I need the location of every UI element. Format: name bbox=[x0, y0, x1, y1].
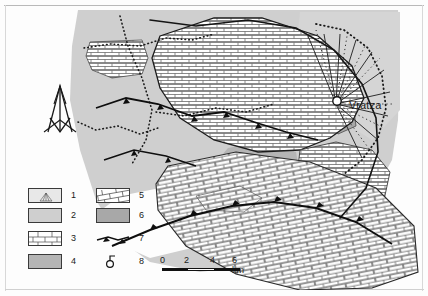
legend-swatch-1 bbox=[28, 188, 62, 203]
scale-label-4: 4 bbox=[210, 255, 215, 265]
scale-rule bbox=[160, 268, 246, 272]
legend-number-6: 6 bbox=[139, 211, 144, 220]
legend-number-2: 2 bbox=[71, 211, 76, 220]
legend-item-4: 4 bbox=[28, 252, 76, 270]
brick-pattern-icon bbox=[29, 232, 62, 246]
map-margin-white-left bbox=[6, 6, 78, 186]
legend: 1 2 bbox=[28, 186, 158, 278]
legend-item-3: 3 bbox=[28, 229, 76, 247]
settlement-marker-vratza bbox=[333, 97, 341, 105]
legend-swatch-2 bbox=[28, 208, 62, 223]
legend-item-5: 5 bbox=[96, 186, 144, 204]
scale-label-6km: 6 km bbox=[232, 255, 246, 275]
legend-symbol-8 bbox=[96, 254, 130, 269]
scale-segment-1 bbox=[162, 268, 188, 271]
geological-map-figure: Vratza 1 2 bbox=[0, 0, 428, 296]
scale-tick-labels: 0 2 4 6 km bbox=[160, 255, 246, 266]
city-label-vratza: Vratza bbox=[349, 99, 382, 111]
legend-number-7: 7 bbox=[139, 234, 144, 243]
legend-number-5: 5 bbox=[139, 191, 144, 200]
scale-bar: 0 2 4 6 km bbox=[160, 255, 260, 281]
legend-number-8: 8 bbox=[139, 257, 144, 266]
legend-item-7: 7 bbox=[96, 229, 144, 247]
scale-segment-3 bbox=[214, 268, 240, 271]
legend-item-8: 8 bbox=[96, 252, 144, 270]
legend-symbol-7 bbox=[96, 231, 130, 246]
scale-label-0: 0 bbox=[160, 255, 165, 265]
legend-swatch-6 bbox=[96, 208, 130, 223]
legend-item-2: 2 bbox=[28, 206, 76, 224]
legend-swatch-4 bbox=[28, 254, 62, 269]
borehole-icon bbox=[96, 254, 130, 269]
thrust-fault-icon bbox=[96, 231, 130, 246]
legend-item-6: 6 bbox=[96, 206, 144, 224]
legend-number-1: 1 bbox=[71, 191, 76, 200]
fan-symbol-icon bbox=[29, 189, 62, 203]
scale-segment-2 bbox=[188, 268, 214, 271]
legend-swatch-3 bbox=[28, 231, 62, 246]
legend-number-4: 4 bbox=[71, 257, 76, 266]
legend-item-1: 1 bbox=[28, 186, 76, 204]
diagonal-brick-pattern-icon bbox=[97, 189, 130, 203]
legend-swatch-5 bbox=[96, 188, 130, 203]
scale-label-2: 2 bbox=[184, 255, 189, 265]
legend-number-3: 3 bbox=[71, 234, 76, 243]
